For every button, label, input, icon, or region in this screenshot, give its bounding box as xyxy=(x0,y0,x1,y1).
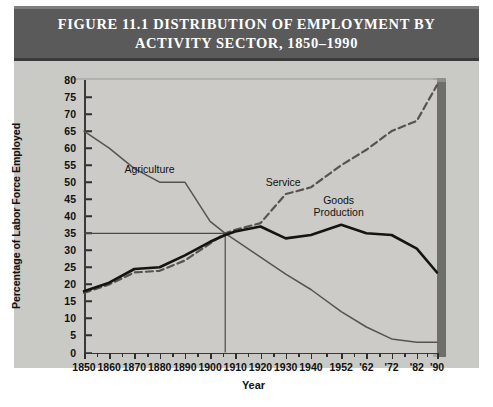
series-line-service xyxy=(84,85,437,293)
x-tick-label: '72 xyxy=(385,361,399,373)
x-tick-label: '62 xyxy=(359,361,373,373)
x-tick-label: '90 xyxy=(430,361,444,373)
x-tick-label: 1880 xyxy=(148,361,171,373)
series-curves xyxy=(14,61,479,362)
chart-area: 05101520253035404550556065707580 1850186… xyxy=(14,61,479,362)
series-label-service: Service xyxy=(266,176,301,188)
x-tick-label: 1850 xyxy=(72,361,95,373)
x-tick-label: '82 xyxy=(410,361,424,373)
x-tick-label: 1890 xyxy=(173,361,196,373)
figure-title: FIGURE 11.1 DISTRIBUTION OF EMPLOYMENT B… xyxy=(14,6,479,61)
x-tick-label: 1860 xyxy=(98,361,121,373)
x-tick-label: 1940 xyxy=(299,361,322,373)
x-tick-label: 1930 xyxy=(274,361,297,373)
figure-title-line-2: ACTIVITY SECTOR, 1850–1990 xyxy=(135,34,358,53)
series-label-agriculture: Agriculture xyxy=(124,163,174,175)
x-tick-label: 1952 xyxy=(329,361,352,373)
series-label-goods-production: GoodsProduction xyxy=(314,194,364,218)
x-axis-label: Year xyxy=(70,379,437,391)
figure-title-line-1: FIGURE 11.1 DISTRIBUTION OF EMPLOYMENT B… xyxy=(58,15,435,34)
x-tick-label: 1870 xyxy=(123,361,146,373)
figure-container: FIGURE 11.1 DISTRIBUTION OF EMPLOYMENT B… xyxy=(0,0,493,407)
x-tick-label: 1910 xyxy=(224,361,247,373)
x-tick-label: 1920 xyxy=(249,361,272,373)
x-tick-label: 1900 xyxy=(198,361,221,373)
